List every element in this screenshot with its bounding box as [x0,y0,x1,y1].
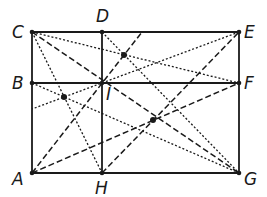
point-marker-e [237,30,242,35]
point-marker-f [237,81,242,86]
dotted-line-CF [32,32,239,83]
point-marker-g [237,171,242,176]
label-d: D [96,6,109,26]
label-h: H [95,178,108,197]
label-f: F [244,73,254,93]
point-marker-p2 [61,94,67,100]
point-marker-p1 [121,52,127,58]
point-markers [30,30,242,176]
point-marker-b [30,81,35,86]
geometry-diagram: CDEBIFAHG [0,0,267,197]
label-a: A [11,169,24,189]
point-labels: CDEBIFAHG [11,6,257,197]
label-e: E [244,22,255,42]
point-marker-i [100,81,105,86]
label-i: I [106,84,111,104]
point-marker-p3 [150,117,156,123]
label-g: G [244,169,257,189]
label-b: B [12,73,24,93]
point-marker-d [100,30,105,35]
point-marker-a [30,171,35,176]
point-marker-c [30,30,35,35]
point-marker-h [100,171,105,176]
dotted-line-CH [32,32,102,173]
dashed-lines [32,32,239,173]
label-c: C [12,22,24,42]
dashed-line-CG [32,32,239,173]
